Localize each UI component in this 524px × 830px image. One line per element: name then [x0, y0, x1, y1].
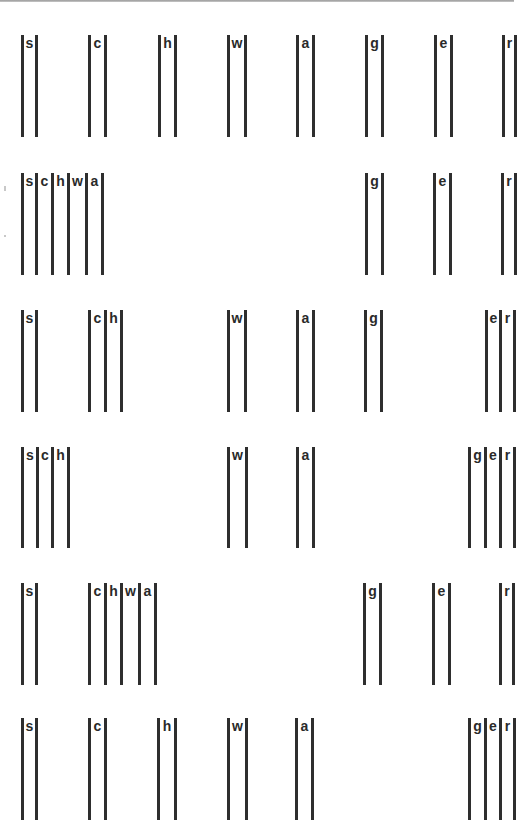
cell-divider-bar [85, 173, 88, 275]
arrangement-row-6: schwager [0, 718, 524, 820]
cell-divider-bar [381, 173, 384, 275]
cell-divider-bar [67, 447, 70, 548]
cell-letter: g [368, 174, 381, 188]
cell-letter: c [91, 36, 104, 50]
cell-letter: w [230, 719, 245, 733]
cell-divider-bar [364, 310, 367, 412]
cell-divider-bar [88, 310, 91, 412]
cell-divider-bar [484, 447, 487, 548]
cell-letter: w [230, 36, 244, 50]
cell-divider-bar [311, 718, 314, 820]
cell-divider-bar [174, 35, 177, 137]
cell-letter: g [471, 448, 484, 462]
cell-letter: h [107, 311, 120, 325]
cell-divider-bar [244, 310, 247, 412]
cell-divider-bar [35, 583, 38, 685]
cell-divider-bar [499, 718, 502, 820]
top-rule [0, 0, 514, 2]
cell-letter: h [107, 584, 120, 598]
cell-divider-bar [104, 35, 107, 137]
cell-divider-bar [514, 173, 517, 275]
arrangement-row-2: schwager [0, 173, 524, 275]
cell-letter: h [160, 719, 174, 733]
cell-divider-bar [502, 35, 505, 137]
cell-letter: a [141, 584, 154, 598]
cell-divider-bar [174, 718, 177, 820]
cell-divider-bar [21, 447, 24, 548]
cell-divider-bar [104, 583, 107, 685]
cell-letter: e [436, 174, 449, 188]
cell-letter: g [368, 36, 381, 50]
cell-letter: r [505, 36, 514, 50]
cell-divider-bar [468, 718, 471, 820]
cell-letter: c [39, 448, 51, 462]
arrangement-row-4: schwager [0, 447, 524, 548]
cell-divider-bar [227, 310, 230, 412]
cell-divider-bar [104, 718, 107, 820]
cell-divider-bar [365, 173, 368, 275]
arrangement-row-1: schwager [0, 35, 524, 137]
cell-divider-bar [51, 173, 54, 275]
cell-divider-bar [35, 173, 38, 275]
cell-divider-bar [379, 583, 382, 685]
cell-letter: h [54, 448, 67, 462]
cell-letter: s [24, 36, 35, 50]
cell-divider-bar [296, 447, 299, 548]
cell-divider-bar [450, 35, 453, 137]
cell-divider-bar [296, 35, 299, 137]
cell-divider-bar [101, 173, 104, 275]
cell-letter: s [24, 719, 35, 733]
cell-letter: g [367, 311, 380, 325]
cell-divider-bar [365, 35, 368, 137]
cell-letter: w [70, 174, 85, 188]
cell-letter: r [502, 311, 513, 325]
arrangement-row-5: schwager [0, 583, 524, 685]
cell-divider-bar [88, 35, 91, 137]
cell-divider-bar [154, 583, 157, 685]
cell-divider-bar [67, 173, 70, 275]
cell-divider-bar [120, 583, 123, 685]
cell-letter: e [487, 448, 499, 462]
cell-divider-bar [88, 718, 91, 820]
cell-letter: w [230, 311, 244, 325]
cell-divider-bar [485, 310, 488, 412]
cell-letter: e [488, 311, 499, 325]
cell-divider-bar [157, 718, 160, 820]
cell-letter: r [502, 448, 513, 462]
cell-divider-bar [227, 447, 230, 548]
cell-letter: r [502, 584, 512, 598]
cell-letter: g [471, 719, 484, 733]
cell-divider-bar [245, 447, 248, 548]
cell-divider-bar [381, 35, 384, 137]
cell-divider-bar [21, 310, 24, 412]
cell-divider-bar [432, 583, 435, 685]
cell-divider-bar [21, 718, 24, 820]
cell-divider-bar [138, 583, 141, 685]
cell-divider-bar [449, 173, 452, 275]
cell-divider-bar [312, 447, 315, 548]
cell-divider-bar [499, 583, 502, 685]
cell-divider-bar [312, 310, 315, 412]
cell-divider-bar [35, 310, 38, 412]
cell-letter: r [504, 174, 514, 188]
cell-divider-bar [21, 583, 24, 685]
cell-divider-bar [104, 310, 107, 412]
cell-letter: c [91, 719, 104, 733]
cell-divider-bar [245, 718, 248, 820]
cell-letter: g [366, 584, 379, 598]
cell-divider-bar [295, 718, 298, 820]
cell-divider-bar [296, 310, 299, 412]
cell-divider-bar [244, 35, 247, 137]
cell-letter: e [435, 584, 448, 598]
cell-divider-bar [484, 718, 487, 820]
cell-letter: a [298, 719, 311, 733]
cell-divider-bar [448, 583, 451, 685]
cell-divider-bar [36, 447, 39, 548]
cell-divider-bar [380, 310, 383, 412]
cell-letter: s [24, 584, 35, 598]
cell-divider-bar [433, 173, 436, 275]
cell-letter: a [88, 174, 101, 188]
cell-letter: s [24, 174, 35, 188]
cell-divider-bar [499, 447, 502, 548]
cell-divider-bar [158, 35, 161, 137]
